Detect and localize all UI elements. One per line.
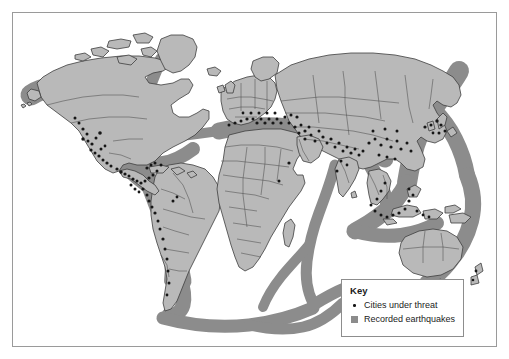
land-new-zealand — [471, 263, 483, 285]
city-dot — [380, 214, 383, 217]
city-dot — [86, 133, 89, 136]
city-dot — [295, 115, 298, 118]
city-dot — [144, 180, 147, 183]
city-dot — [336, 170, 339, 173]
city-dot — [128, 175, 131, 178]
city-dot — [150, 164, 153, 167]
city-dot — [110, 165, 113, 168]
city-dot — [283, 115, 286, 118]
city-dot — [176, 196, 179, 199]
city-dot — [131, 177, 134, 180]
land-africa — [217, 129, 305, 271]
city-dot — [404, 208, 407, 211]
city-dot — [444, 130, 447, 133]
city-dot — [346, 146, 349, 149]
city-dot — [172, 200, 175, 203]
city-dot — [308, 126, 311, 129]
city-dot — [428, 216, 431, 219]
city-dot — [258, 112, 261, 115]
city-dot — [145, 166, 148, 169]
city-dot — [342, 150, 345, 153]
city-dot — [98, 131, 102, 135]
city-dot — [276, 118, 279, 121]
city-dot — [138, 191, 141, 194]
city-dot — [81, 127, 84, 130]
city-dot — [337, 141, 340, 144]
city-dot — [380, 190, 383, 193]
city-dot — [354, 148, 357, 151]
city-dot — [240, 120, 243, 123]
city-dot — [252, 118, 255, 121]
legend-item-cities: Cities under threat — [350, 299, 456, 312]
city-dot — [435, 119, 438, 122]
city-dot — [412, 194, 415, 197]
legend-item-earthquakes: Recorded earthquakes — [350, 313, 456, 326]
city-dot — [423, 125, 426, 128]
city-dot — [410, 150, 413, 153]
city-dot — [310, 134, 313, 137]
city-dot — [154, 162, 157, 165]
land-scandinavia — [251, 57, 279, 81]
city-dot — [392, 214, 395, 217]
legend-label-cities: Cities under threat — [364, 299, 438, 312]
city-dot — [74, 117, 77, 120]
map-legend: Key Cities under threat Recorded earthqu… — [341, 279, 464, 337]
city-dot — [370, 204, 373, 207]
city-dot — [367, 141, 370, 144]
city-dot — [340, 160, 343, 163]
city-dot — [384, 128, 387, 131]
city-dot — [263, 121, 266, 124]
city-dot — [394, 158, 397, 161]
city-dot — [358, 154, 361, 157]
city-dot — [279, 121, 282, 124]
city-dot — [228, 124, 231, 127]
city-dot — [399, 147, 402, 150]
city-dot — [134, 188, 137, 191]
city-dot — [152, 174, 155, 177]
city-dot — [123, 172, 126, 175]
city-dot — [438, 132, 441, 135]
city-dot — [153, 211, 156, 214]
city-dot — [242, 112, 245, 115]
city-dot — [97, 154, 100, 157]
city-dot — [314, 140, 317, 143]
earthquake-square-swatch-icon — [350, 316, 359, 324]
city-dot — [288, 122, 291, 125]
city-dot — [157, 220, 160, 223]
city-dot — [90, 142, 93, 145]
land-madagascar — [283, 219, 295, 247]
legend-title: Key — [350, 285, 456, 296]
city-dot — [139, 181, 142, 184]
city-dot — [166, 294, 169, 297]
city-dot — [326, 142, 329, 145]
city-dot — [374, 210, 377, 213]
city-dot — [430, 124, 433, 127]
city-dot — [396, 140, 399, 143]
city-dot — [439, 123, 442, 126]
city-dot — [274, 112, 277, 115]
city-dot — [334, 146, 337, 149]
city-dot — [300, 124, 303, 127]
city-dot — [346, 164, 349, 167]
city-dot — [233, 121, 236, 124]
zone-indian-ocean-ridge — [306, 165, 335, 303]
map-figure: Key Cities under threat Recorded earthqu… — [0, 0, 509, 359]
city-dot — [290, 114, 293, 117]
city-dot — [374, 138, 377, 141]
city-dot — [255, 121, 258, 124]
city-dot — [378, 154, 381, 157]
city-dot — [386, 156, 389, 159]
city-dot — [318, 130, 321, 133]
city-dot — [293, 125, 296, 128]
map-frame: Key Cities under threat Recorded earthqu… — [12, 12, 497, 347]
city-dot — [167, 270, 170, 273]
city-dot — [304, 138, 307, 141]
city-dot — [147, 176, 150, 179]
city-dot — [329, 137, 332, 140]
city-dot — [271, 121, 274, 124]
city-dot — [386, 138, 389, 141]
city-dot — [119, 170, 122, 173]
city-dot-swatch-icon — [350, 304, 359, 307]
city-dot — [432, 132, 435, 135]
city-dot — [472, 279, 475, 282]
